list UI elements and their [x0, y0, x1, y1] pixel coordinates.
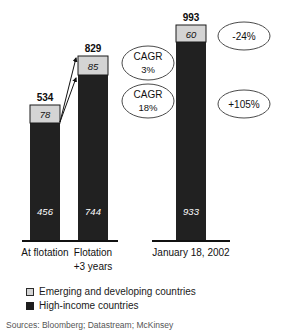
callout-cagr-high-income-line2: 18%: [138, 102, 158, 113]
callout-change-emerging: -24%: [218, 22, 270, 50]
bar-group-flotation-plus-3-years: 829 85 744: [78, 43, 108, 240]
category-label-flotation-line1: Flotation: [74, 247, 112, 258]
callout-cagr-high-income: CAGR 18%: [122, 84, 174, 118]
bar-total-label-2: 829: [85, 43, 102, 54]
bar-segment-value-emerging-2: 85: [88, 61, 99, 72]
callout-change-high-income-label: +105%: [228, 99, 260, 110]
callout-change-high-income: +105%: [218, 90, 270, 118]
dark-square-icon: [26, 302, 34, 310]
growth-arrows: [60, 58, 76, 122]
sources-note: Sources: Bloomberg; Datastream; McKinsey: [6, 320, 173, 330]
category-label-at-flotation: At flotation: [21, 247, 68, 258]
callout-cagr-high-income-line1: CAGR: [134, 89, 163, 100]
legend-item-emerging: Emerging and developing countries: [26, 286, 196, 297]
callout-cagr-emerging-line2: 3%: [141, 64, 155, 75]
bar-segment-value-emerging-3: 60: [186, 29, 197, 40]
bar-segment-value-high-income-2: 744: [85, 206, 101, 217]
chart-container: 534 78 456 829 85 744 993: [0, 0, 297, 333]
bar-total-label-3: 993: [183, 12, 200, 23]
arrow-emerging-growth: [60, 58, 76, 122]
bar-segment-high-income-1: [30, 123, 60, 240]
legend-item-emerging-label: Emerging and developing countries: [39, 286, 196, 297]
light-square-icon: [26, 288, 34, 296]
bar-segment-value-high-income-1: 456: [37, 206, 54, 217]
callout-change-emerging-label: -24%: [232, 31, 255, 42]
category-label-flotation-line2: +3 years: [74, 261, 113, 272]
bar-group-january-18-2002: 993 60 933: [176, 12, 206, 240]
bar-segment-value-high-income-3: 933: [183, 206, 200, 217]
category-labels: At flotation Flotation +3 years January …: [21, 247, 230, 272]
bar-segment-value-emerging-1: 78: [40, 109, 51, 120]
arrow-high-income-growth: [60, 78, 76, 122]
stacked-bar-chart: 534 78 456 829 85 744 993: [0, 0, 297, 283]
bar-group-at-flotation: 534 78 456: [30, 92, 60, 240]
legend-item-high-income: High-income countries: [26, 300, 139, 311]
legend-item-high-income-label: High-income countries: [39, 300, 139, 311]
category-label-january-18-2002: January 18, 2002: [152, 247, 230, 258]
callout-cagr-emerging-line1: CAGR: [134, 51, 163, 62]
bar-total-label-1: 534: [37, 92, 54, 103]
callout-cagr-emerging: CAGR 3%: [122, 46, 174, 80]
